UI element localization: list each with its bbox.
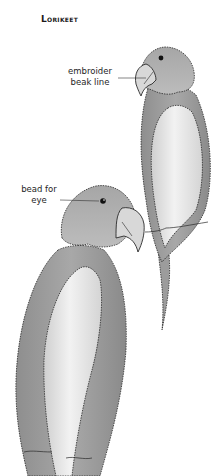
upper-lorikeet (135, 47, 210, 330)
lower-lorikeet (16, 186, 144, 476)
beak-shape (116, 208, 144, 252)
eye-bead-icon (159, 56, 164, 61)
eye-bead-icon (100, 198, 106, 204)
illustration (0, 0, 222, 476)
